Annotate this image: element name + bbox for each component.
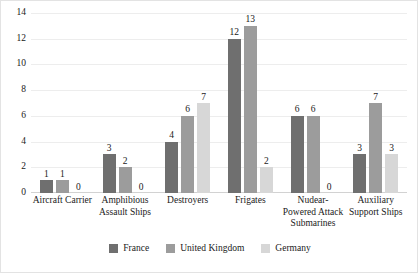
bar-value-label: 3 xyxy=(389,144,394,154)
bar-slot: 7 xyxy=(369,13,382,193)
bar-group: 110 xyxy=(31,13,94,193)
bar-united-kingdom[interactable]: 6 xyxy=(307,116,320,193)
legend-swatch-icon xyxy=(166,244,175,253)
legend-label: France xyxy=(123,244,149,254)
legend-item-germany[interactable]: Germany xyxy=(261,244,310,254)
bar-value-label: 3 xyxy=(357,144,362,154)
category-label: Nudear-Powered Attack Submarines xyxy=(282,195,345,230)
legend-item-united-kingdom[interactable]: United Kingdom xyxy=(166,244,244,254)
bar-slot: 13 xyxy=(244,13,257,193)
category-label: Aircraft Carrier xyxy=(31,195,94,230)
bar-germany[interactable]: 3 xyxy=(385,154,398,193)
bar-slot: 1 xyxy=(40,13,53,193)
bar-value-label: 0 xyxy=(76,183,81,193)
bar-value-label: 7 xyxy=(201,93,206,103)
legend-swatch-icon xyxy=(109,244,118,253)
category-labels: Aircraft CarrierAmphibious Assault Ships… xyxy=(31,195,407,230)
bar-value-label: 6 xyxy=(185,105,190,115)
bar-slot: 6 xyxy=(307,13,320,193)
y-tick-label-0: 0 xyxy=(21,188,26,198)
bar-slot: 12 xyxy=(228,13,241,193)
bar-france[interactable]: 12 xyxy=(228,39,241,193)
legend-swatch-icon xyxy=(261,244,270,253)
bar-france[interactable]: 3 xyxy=(353,154,366,193)
plot-area: 02468101214 11032046712132660373 xyxy=(31,13,407,193)
bar-value-label: 7 xyxy=(373,93,378,103)
category-label: Auxiliary Support Ships xyxy=(344,195,407,230)
bar-slot: 7 xyxy=(197,13,210,193)
bar-value-label: 6 xyxy=(295,105,300,115)
bar-slot: 3 xyxy=(353,13,366,193)
bar-slot: 6 xyxy=(181,13,194,193)
bar-value-label: 6 xyxy=(311,105,316,115)
bar-group: 373 xyxy=(344,13,407,193)
bar-value-label: 0 xyxy=(139,183,144,193)
bar-slot: 3 xyxy=(385,13,398,193)
bar-france[interactable]: 1 xyxy=(40,180,53,193)
bar-value-label: 3 xyxy=(107,144,112,154)
bar-france[interactable]: 6 xyxy=(291,116,304,193)
bar-france[interactable]: 3 xyxy=(103,154,116,193)
bar-value-label: 12 xyxy=(230,28,240,38)
bar-chart-figure: 02468101214 11032046712132660373 Aircraf… xyxy=(0,0,418,273)
y-tick-label-8: 8 xyxy=(21,85,26,95)
category-label: Destroyers xyxy=(156,195,219,230)
bar-slot: 2 xyxy=(119,13,132,193)
bar-slot: 4 xyxy=(165,13,178,193)
y-tick-label-6: 6 xyxy=(21,111,26,121)
legend-item-france[interactable]: France xyxy=(109,244,149,254)
bar-value-label: 13 xyxy=(246,15,256,25)
bar-value-label: 1 xyxy=(44,170,49,180)
bar-united-kingdom[interactable]: 6 xyxy=(181,116,194,193)
bar-value-label: 2 xyxy=(123,157,128,167)
bar-value-label: 4 xyxy=(169,131,174,141)
bar-united-kingdom[interactable]: 7 xyxy=(369,103,382,193)
y-tick-label-12: 12 xyxy=(17,34,27,44)
bar-group: 467 xyxy=(156,13,219,193)
bar-group: 12132 xyxy=(219,13,282,193)
bar-slot: 0 xyxy=(323,13,336,193)
bar-slot: 3 xyxy=(103,13,116,193)
bar-united-kingdom[interactable]: 1 xyxy=(56,180,69,193)
legend-label: United Kingdom xyxy=(180,244,244,254)
bar-group: 660 xyxy=(282,13,345,193)
bar-group: 320 xyxy=(94,13,157,193)
bar-value-label: 2 xyxy=(264,157,269,167)
bar-value-label: 1 xyxy=(60,170,65,180)
bar-groups: 11032046712132660373 xyxy=(31,13,407,193)
y-tick-label-14: 14 xyxy=(17,8,27,18)
legend-label: Germany xyxy=(275,244,310,254)
bar-france[interactable]: 4 xyxy=(165,142,178,193)
y-tick-label-2: 2 xyxy=(21,163,26,173)
bar-united-kingdom[interactable]: 13 xyxy=(244,26,257,193)
category-label: Frigates xyxy=(219,195,282,230)
chart-legend: FranceUnited KingdomGermany xyxy=(1,244,418,254)
bar-slot: 0 xyxy=(135,13,148,193)
bar-slot: 6 xyxy=(291,13,304,193)
bar-germany[interactable]: 7 xyxy=(197,103,210,193)
bar-germany[interactable]: 2 xyxy=(260,167,273,193)
bar-united-kingdom[interactable]: 2 xyxy=(119,167,132,193)
bar-value-label: 0 xyxy=(327,183,332,193)
category-label: Amphibious Assault Ships xyxy=(94,195,157,230)
bar-slot: 1 xyxy=(56,13,69,193)
bar-slot: 2 xyxy=(260,13,273,193)
bar-slot: 0 xyxy=(72,13,85,193)
y-tick-label-4: 4 xyxy=(21,137,26,147)
y-tick-label-10: 10 xyxy=(17,60,27,70)
